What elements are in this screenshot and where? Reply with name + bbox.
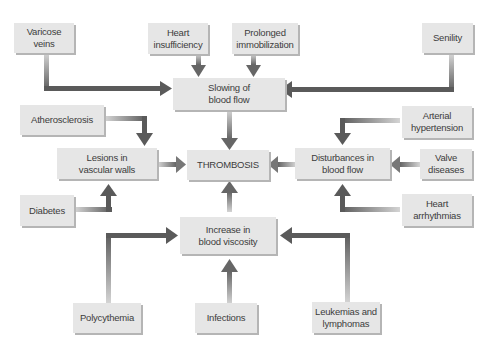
cause-prolonged-immobilization: Prolonged immobilization [232, 23, 298, 54]
arrow-arrhythmias-to-disturbances [334, 184, 400, 212]
mechanism-lesions-in-vascular-walls: Lesions in vascular walls [57, 148, 157, 179]
arrow-senility-to-slowing [280, 54, 454, 98]
thrombosis-diagram: Varicose veins Heart insufficiency Prolo… [0, 0, 488, 349]
arrow-polycythemia-to-viscosity [106, 227, 178, 303]
mechanism-disturbances-in-blood-flow: Disturbances in blood flow [295, 148, 390, 179]
cause-polycythemia: Polycythemia [73, 303, 141, 333]
arrow-atherosclerosis-to-lesions [105, 116, 153, 146]
arrow-lesions-to-thrombosis [158, 156, 186, 173]
cause-leukemias-and-lymphomas: Leukemias and lymphomas [312, 302, 380, 333]
cause-valve-diseases: Valve diseases [420, 149, 472, 179]
cause-senility: Senility [422, 23, 473, 53]
arrow-varicose-to-slowing [44, 53, 172, 96]
thrombosis-center: THROMBOSIS [187, 150, 269, 180]
cause-arterial-hypertension: Arterial hypertension [402, 106, 472, 138]
arrow-heart-insufficiency-to-slowing [191, 54, 206, 77]
arrow-viscosity-to-thrombosis [221, 181, 238, 212]
cause-infections: Infections [195, 303, 257, 333]
mechanism-slowing-of-blood-flow: Slowing of blood flow [173, 78, 285, 110]
cause-varicose-veins: Varicose veins [14, 23, 74, 53]
arrow-leukemias-to-viscosity [280, 227, 350, 303]
arrow-disturbances-to-thrombosis [268, 156, 296, 173]
arrow-infections-to-viscosity [221, 259, 238, 304]
cause-heart-arrhythmias: Heart arrhythmias [402, 194, 472, 226]
cause-diabetes: Diabetes [20, 195, 74, 226]
arrow-valve-to-disturbances [390, 156, 420, 173]
arrow-hypertension-to-disturbances [334, 118, 400, 145]
arrow-slowing-to-thrombosis [221, 110, 238, 150]
arrow-diabetes-to-lesions [75, 184, 117, 212]
cause-heart-insufficiency: Heart insufficiency [148, 23, 208, 54]
arrow-immobilization-to-slowing [246, 54, 261, 77]
cause-atherosclerosis: Atherosclerosis [20, 105, 104, 135]
mechanism-increase-in-blood-viscosity: Increase in blood viscosity [180, 217, 276, 254]
